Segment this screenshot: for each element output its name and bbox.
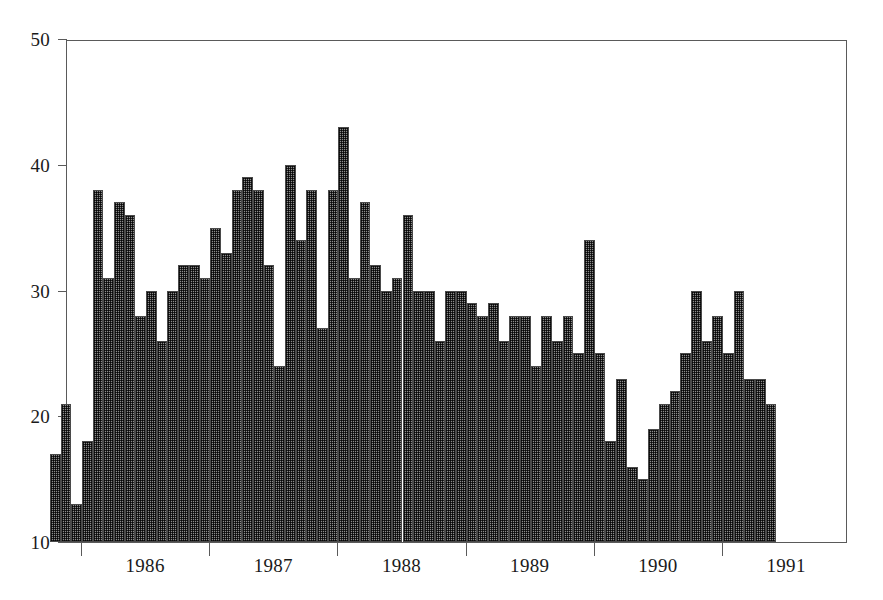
x-axis-tick: [209, 543, 210, 556]
bar: [274, 366, 285, 542]
bar: [328, 190, 339, 542]
bar: [167, 291, 178, 543]
bar: [103, 278, 114, 542]
bar: [627, 467, 638, 542]
bar: [370, 265, 381, 542]
bar: [744, 379, 755, 542]
x-axis-tick: [337, 543, 338, 556]
y-axis-tick-label: 20: [4, 407, 50, 426]
bar: [563, 316, 574, 542]
x-axis-tick-label: 1991: [726, 556, 846, 576]
bar: [670, 391, 681, 542]
x-axis-tick: [594, 543, 595, 556]
bar: [723, 353, 734, 542]
y-axis-tick-label: 40: [4, 156, 50, 175]
bar: [242, 177, 253, 542]
bar: [648, 429, 659, 542]
x-axis-tick: [81, 543, 82, 556]
bar: [584, 240, 595, 542]
bar: [691, 291, 702, 543]
bars-layer: [67, 41, 846, 542]
bar: [467, 303, 478, 542]
x-axis-tick-label: 1986: [85, 556, 205, 576]
bar: [210, 228, 221, 542]
bar: [221, 253, 232, 542]
bar: [488, 303, 499, 542]
bar: [178, 265, 189, 542]
bar: [253, 190, 264, 542]
bar: [659, 404, 670, 542]
bar: [477, 316, 488, 542]
bar: [456, 291, 467, 543]
y-axis-tick-label: 30: [4, 282, 50, 301]
bar: [541, 316, 552, 542]
x-axis-tick: [722, 543, 723, 556]
bar: [232, 190, 243, 542]
bar: [573, 353, 584, 542]
bar: [360, 202, 371, 542]
bar: [82, 441, 93, 542]
bar: [531, 366, 542, 542]
bar: [306, 190, 317, 542]
bar: [71, 504, 82, 542]
bar: [509, 316, 520, 542]
bar: [403, 215, 414, 542]
bar: [435, 341, 446, 542]
bar: [595, 353, 606, 542]
y-axis-tick-label: 10: [4, 533, 50, 552]
bar-chart: 1020304050 198619871988198919901991: [0, 0, 883, 600]
x-axis-tick-label: 1988: [342, 556, 462, 576]
x-axis-tick: [466, 543, 467, 556]
plot-area: [66, 40, 847, 543]
bar: [605, 441, 616, 542]
bar: [499, 341, 510, 542]
bar: [552, 341, 563, 542]
x-axis-tick-label: 1989: [470, 556, 590, 576]
bar: [638, 479, 649, 542]
bar: [445, 291, 456, 543]
bar: [125, 215, 136, 542]
bar: [702, 341, 713, 542]
bar: [135, 316, 146, 542]
y-axis-tick-label: 50: [4, 30, 50, 49]
bar: [520, 316, 531, 542]
bar: [61, 404, 72, 542]
bar: [616, 379, 627, 542]
bar: [200, 278, 211, 542]
bar: [285, 165, 296, 542]
bar: [755, 379, 766, 542]
bar: [349, 278, 360, 542]
x-axis-tick-label: 1990: [598, 556, 718, 576]
bar: [114, 202, 125, 542]
bar: [296, 240, 307, 542]
bar: [413, 291, 424, 543]
x-axis-tick-label: 1987: [213, 556, 333, 576]
bar: [338, 127, 349, 542]
bar: [317, 328, 328, 542]
bar: [93, 190, 104, 542]
bar: [146, 291, 157, 543]
bar: [392, 278, 403, 542]
bar: [712, 316, 723, 542]
bar: [381, 291, 392, 543]
bar: [424, 291, 435, 543]
bar: [680, 353, 691, 542]
bar: [734, 291, 745, 543]
bar: [189, 265, 200, 542]
bar: [264, 265, 275, 542]
bar: [50, 454, 61, 542]
bar: [157, 341, 168, 542]
bar: [766, 404, 777, 542]
